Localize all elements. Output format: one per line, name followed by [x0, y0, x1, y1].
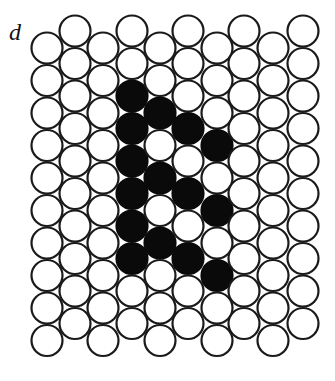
- empty-circle: [258, 260, 289, 291]
- empty-circle: [229, 243, 260, 274]
- empty-circle: [88, 228, 119, 259]
- empty-circle: [288, 16, 319, 47]
- empty-circle: [145, 293, 176, 324]
- filled-circle: [145, 163, 176, 194]
- empty-circle: [117, 16, 148, 47]
- filled-circle: [117, 146, 148, 177]
- empty-circle: [88, 293, 119, 324]
- empty-circle: [202, 163, 233, 194]
- empty-circle: [258, 33, 289, 64]
- empty-circle: [202, 293, 233, 324]
- empty-circle: [145, 260, 176, 291]
- empty-circle: [229, 48, 260, 79]
- empty-circle: [288, 308, 319, 339]
- empty-circle: [32, 163, 63, 194]
- empty-circle: [229, 308, 260, 339]
- circle-grid: [0, 0, 335, 381]
- empty-circle: [88, 163, 119, 194]
- empty-circle: [88, 130, 119, 161]
- empty-circle: [258, 293, 289, 324]
- empty-circle: [202, 228, 233, 259]
- empty-circle: [32, 325, 63, 356]
- empty-circle: [88, 98, 119, 129]
- empty-circle: [258, 325, 289, 356]
- empty-circle: [117, 276, 148, 307]
- empty-circle: [173, 308, 204, 339]
- empty-circle: [173, 48, 204, 79]
- filled-circle: [117, 243, 148, 274]
- empty-circle: [32, 33, 63, 64]
- empty-circle: [60, 178, 91, 209]
- empty-circle: [202, 98, 233, 129]
- filled-circle: [173, 243, 204, 274]
- empty-circle: [32, 130, 63, 161]
- empty-circle: [288, 113, 319, 144]
- empty-circle: [288, 243, 319, 274]
- empty-circle: [173, 211, 204, 242]
- empty-circle: [258, 130, 289, 161]
- empty-circle: [60, 16, 91, 47]
- empty-circle: [60, 146, 91, 177]
- filled-circle: [173, 113, 204, 144]
- empty-circle: [32, 65, 63, 96]
- empty-circle: [145, 195, 176, 226]
- empty-circle: [258, 98, 289, 129]
- empty-circle: [32, 293, 63, 324]
- empty-circle: [229, 178, 260, 209]
- empty-circle: [258, 65, 289, 96]
- empty-circle: [60, 113, 91, 144]
- filled-circle: [202, 130, 233, 161]
- filled-circle: [202, 260, 233, 291]
- empty-circle: [32, 195, 63, 226]
- empty-circle: [88, 260, 119, 291]
- empty-circle: [32, 260, 63, 291]
- empty-circle: [173, 81, 204, 112]
- empty-circle: [88, 65, 119, 96]
- empty-circle: [60, 211, 91, 242]
- filled-circle: [117, 178, 148, 209]
- empty-circle: [173, 16, 204, 47]
- empty-circle: [202, 65, 233, 96]
- empty-circle: [117, 308, 148, 339]
- empty-circle: [229, 146, 260, 177]
- empty-circle: [60, 308, 91, 339]
- empty-circle: [288, 211, 319, 242]
- empty-circle: [229, 211, 260, 242]
- empty-circle: [173, 146, 204, 177]
- empty-circle: [288, 48, 319, 79]
- empty-circle: [229, 16, 260, 47]
- empty-circle: [258, 228, 289, 259]
- filled-circle: [117, 81, 148, 112]
- empty-circle: [145, 65, 176, 96]
- empty-circle: [117, 48, 148, 79]
- empty-circle: [229, 276, 260, 307]
- empty-circle: [229, 81, 260, 112]
- empty-circle: [202, 325, 233, 356]
- filled-circle: [145, 98, 176, 129]
- empty-circle: [88, 33, 119, 64]
- empty-circle: [145, 130, 176, 161]
- empty-circle: [60, 48, 91, 79]
- empty-circle: [288, 178, 319, 209]
- empty-circle: [258, 195, 289, 226]
- filled-circle: [173, 178, 204, 209]
- filled-circle: [145, 228, 176, 259]
- empty-circle: [229, 113, 260, 144]
- empty-circle: [32, 228, 63, 259]
- empty-circle: [173, 276, 204, 307]
- empty-circle: [60, 81, 91, 112]
- empty-circle: [88, 195, 119, 226]
- empty-circle: [288, 276, 319, 307]
- filled-circle: [117, 113, 148, 144]
- empty-circle: [202, 33, 233, 64]
- empty-circle: [60, 276, 91, 307]
- circle-grid-figure: d: [0, 0, 335, 381]
- empty-circle: [258, 163, 289, 194]
- empty-circle: [88, 325, 119, 356]
- filled-circle: [202, 195, 233, 226]
- empty-circle: [60, 243, 91, 274]
- empty-circle: [288, 146, 319, 177]
- filled-circle: [117, 211, 148, 242]
- empty-circle: [145, 325, 176, 356]
- empty-circle: [145, 33, 176, 64]
